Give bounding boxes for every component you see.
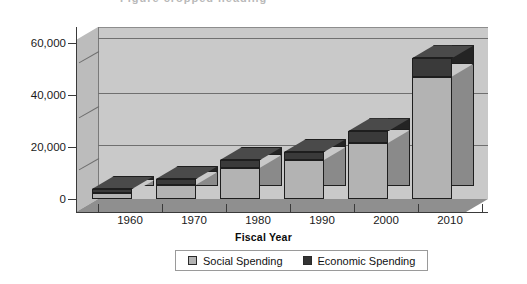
x-axis-tick [418, 204, 419, 213]
y-axis-tick [68, 147, 77, 148]
bar-column [348, 27, 410, 199]
clipped-title-sliver: Figure cropped heading [120, 0, 300, 5]
bar-segment-social [220, 168, 260, 199]
bar-segment-social-side [388, 130, 410, 186]
y-axis-tick [68, 43, 77, 44]
x-axis-tick-label: 2010 [418, 214, 482, 227]
x-axis-tick [98, 204, 99, 213]
legend-item[interactable]: Social Spending [188, 255, 283, 267]
plot-area [76, 27, 488, 212]
y-axis-tick-label: 20,000 [4, 141, 66, 153]
bar-segment-social [92, 193, 132, 199]
y-axis-tick-label: 0 [4, 193, 66, 205]
x-axis-line [76, 212, 488, 213]
x-axis-title: Fiscal Year [0, 231, 527, 243]
legend-swatch-icon [303, 256, 312, 265]
x-axis-tick [354, 204, 355, 213]
bar-segment-social [348, 143, 388, 199]
legend-item[interactable]: Economic Spending [303, 255, 416, 267]
x-axis-tick-label: 1970 [162, 214, 226, 227]
bar-column [220, 27, 282, 199]
y-axis-line [76, 27, 77, 212]
bar-segment-economic [348, 131, 388, 143]
y-axis-tick [68, 199, 77, 200]
bar-column [92, 27, 154, 199]
legend-label: Social Spending [203, 255, 283, 267]
legend-label: Economic Spending [318, 255, 416, 267]
y-axis-tick-label: 60,000 [4, 37, 66, 49]
bar-segment-social-side [324, 147, 346, 186]
bar-segment-economic [412, 58, 452, 76]
clipped-title-text: Figure cropped heading [120, 0, 300, 4]
bar-segment-economic [284, 152, 324, 160]
y-axis-tick [68, 95, 77, 96]
bar-top-cap [156, 166, 218, 179]
bar-column [284, 27, 346, 199]
bar-column [412, 27, 474, 199]
bar-segment-economic [220, 160, 260, 168]
y-axis-tick-label: 40,000 [4, 89, 66, 101]
x-axis-tick-label: 1990 [290, 214, 354, 227]
chart-legend: Social SpendingEconomic Spending [175, 250, 428, 271]
bar-segment-social [156, 185, 196, 199]
x-axis-tick-label: 1960 [98, 214, 162, 227]
bar-top-cap [92, 176, 154, 189]
x-axis-tick [290, 204, 291, 213]
bar-segment-social [284, 160, 324, 199]
x-axis-tick [162, 204, 163, 213]
x-axis-tick-label: 2000 [354, 214, 418, 227]
bar-segment-social-side [260, 155, 282, 186]
x-axis-tick-label: 1980 [226, 214, 290, 227]
bar-segment-social [412, 77, 452, 199]
chart-figure: Figure cropped heading 60,00040,00020,00… [0, 0, 527, 284]
legend-swatch-icon [188, 256, 197, 265]
bar-column [156, 27, 218, 199]
x-axis-tick [482, 204, 483, 213]
x-axis-tick [226, 204, 227, 213]
bar-segment-social-side [452, 64, 474, 186]
